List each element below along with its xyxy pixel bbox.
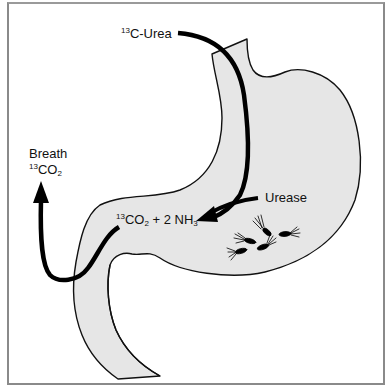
urease-label: Urease (265, 191, 307, 205)
subscript: 3 (193, 219, 197, 228)
co-text: CO (38, 162, 58, 177)
breath-arrowhead-icon (33, 181, 49, 203)
nh-text: + 2 NH (149, 212, 193, 227)
isotope-superscript: 13 (116, 212, 125, 221)
isotope-superscript: 13 (121, 26, 130, 35)
urea-label: 13C-Urea (121, 27, 172, 41)
urea-text: C-Urea (130, 26, 172, 41)
breath-co2-text: 13CO2 (29, 163, 67, 177)
products-label: 13CO2 + 2 NH3 (116, 213, 198, 227)
co-text: CO (125, 212, 145, 227)
subscript: 2 (57, 169, 61, 178)
breath-label: Breath 13CO2 (29, 147, 67, 177)
isotope-superscript: 13 (29, 162, 38, 171)
stomach-diagram (0, 0, 388, 389)
breath-text: Breath (29, 147, 67, 161)
